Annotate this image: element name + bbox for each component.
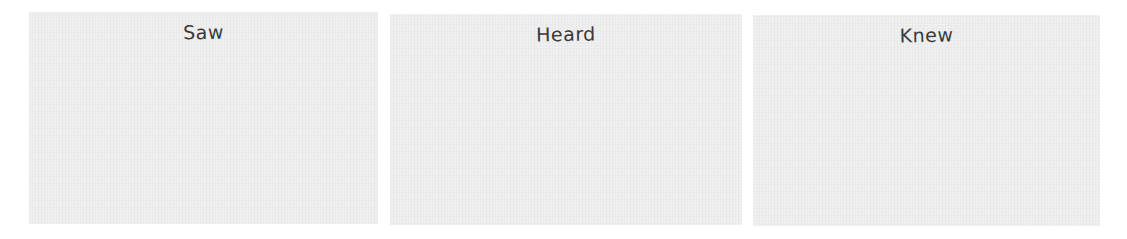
- panel-heard: Heard: [390, 14, 742, 225]
- panel-title-heard: Heard: [390, 20, 742, 48]
- panel-saw: Saw: [29, 12, 378, 224]
- panel-title-knew: Knew: [753, 21, 1100, 49]
- panel-knew: Knew: [753, 15, 1100, 226]
- panel-title-saw: Saw: [29, 18, 378, 46]
